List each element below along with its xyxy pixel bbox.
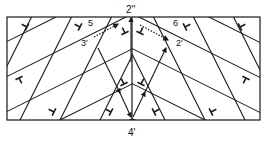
dislocation-icon xyxy=(20,21,29,31)
label-right-number: 6 xyxy=(173,18,178,28)
label-bottom-center: 4' xyxy=(128,127,136,138)
label-top-center: 2'' xyxy=(126,4,135,15)
label-left-vector: 3' xyxy=(81,38,88,48)
label-left-number: 5 xyxy=(88,18,93,28)
dislocation-icon xyxy=(240,76,250,85)
vector-2prime xyxy=(140,25,168,40)
dislocation-icon xyxy=(15,76,25,85)
dislocation-icon xyxy=(209,106,218,116)
dislocation-icon xyxy=(136,26,146,35)
dislocation-icon xyxy=(47,106,56,116)
vector-3prime xyxy=(94,24,118,37)
dislocation-icon xyxy=(119,26,129,35)
dislocation-icon xyxy=(183,21,192,31)
label-right-vector: 2' xyxy=(176,38,183,48)
diagram-frame xyxy=(7,17,260,120)
diagram-canvas: 2'' 4' 5 3' 6 2' xyxy=(0,0,265,141)
dislocation-icon xyxy=(73,21,82,31)
